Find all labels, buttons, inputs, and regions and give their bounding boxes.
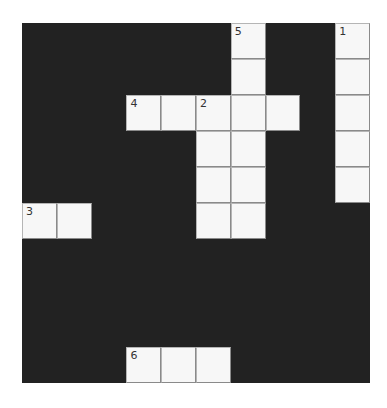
grid-cell-r2c4[interactable] <box>161 95 196 131</box>
black-square <box>335 311 370 347</box>
black-square <box>22 95 57 131</box>
black-square <box>92 59 127 95</box>
grid-cell-r9c4[interactable] <box>161 347 196 383</box>
black-square <box>266 131 301 167</box>
black-square <box>22 59 57 95</box>
black-square <box>57 23 92 59</box>
black-square <box>92 239 127 275</box>
crossword-grid: 514236 <box>22 23 370 383</box>
black-square <box>22 275 57 311</box>
black-square <box>126 23 161 59</box>
black-square <box>266 167 301 203</box>
black-square <box>300 131 335 167</box>
black-square <box>266 59 301 95</box>
grid-cell-r3c5[interactable] <box>196 131 231 167</box>
black-square <box>300 23 335 59</box>
black-square <box>22 311 57 347</box>
grid-cell-r1c9[interactable] <box>335 59 370 95</box>
black-square <box>196 59 231 95</box>
grid-cell-r0c6[interactable]: 5 <box>231 23 266 59</box>
black-square <box>92 203 127 239</box>
black-square <box>92 275 127 311</box>
grid-cell-r2c3[interactable]: 4 <box>126 95 161 131</box>
grid-cell-r2c5[interactable]: 2 <box>196 95 231 131</box>
black-square <box>161 239 196 275</box>
black-square <box>57 347 92 383</box>
black-square <box>266 239 301 275</box>
black-square <box>161 311 196 347</box>
black-square <box>196 311 231 347</box>
grid-cell-r3c6[interactable] <box>231 131 266 167</box>
black-square <box>92 23 127 59</box>
black-square <box>196 239 231 275</box>
black-square <box>300 347 335 383</box>
clue-number: 5 <box>235 25 242 38</box>
black-square <box>300 167 335 203</box>
black-square <box>231 311 266 347</box>
black-square <box>196 23 231 59</box>
black-square <box>266 311 301 347</box>
grid-cell-r2c7[interactable] <box>266 95 301 131</box>
grid-cell-r1c6[interactable] <box>231 59 266 95</box>
black-square <box>22 239 57 275</box>
black-square <box>266 347 301 383</box>
black-square <box>22 23 57 59</box>
grid-cell-r2c9[interactable] <box>335 95 370 131</box>
black-square <box>161 167 196 203</box>
grid-cell-r3c9[interactable] <box>335 131 370 167</box>
black-square <box>161 203 196 239</box>
black-square <box>335 275 370 311</box>
grid-cell-r9c5[interactable] <box>196 347 231 383</box>
black-square <box>126 167 161 203</box>
black-square <box>126 59 161 95</box>
black-square <box>266 23 301 59</box>
black-square <box>57 311 92 347</box>
black-square <box>300 95 335 131</box>
black-square <box>57 275 92 311</box>
grid-cell-r4c9[interactable] <box>335 167 370 203</box>
black-square <box>231 347 266 383</box>
black-square <box>266 275 301 311</box>
black-square <box>335 347 370 383</box>
clue-number: 1 <box>339 25 346 38</box>
clue-number: 3 <box>26 205 33 218</box>
black-square <box>126 203 161 239</box>
black-square <box>92 95 127 131</box>
grid-cell-r4c5[interactable] <box>196 167 231 203</box>
black-square <box>161 23 196 59</box>
grid-cell-r9c3[interactable]: 6 <box>126 347 161 383</box>
black-square <box>92 131 127 167</box>
black-square <box>22 167 57 203</box>
black-square <box>300 239 335 275</box>
black-square <box>22 131 57 167</box>
grid-cell-r4c6[interactable] <box>231 167 266 203</box>
black-square <box>335 239 370 275</box>
black-square <box>126 131 161 167</box>
black-square <box>231 275 266 311</box>
black-square <box>57 167 92 203</box>
grid-cell-r2c6[interactable] <box>231 95 266 131</box>
black-square <box>300 311 335 347</box>
black-square <box>92 311 127 347</box>
black-square <box>161 131 196 167</box>
grid-cell-r5c6[interactable] <box>231 203 266 239</box>
black-square <box>266 203 301 239</box>
black-square <box>57 239 92 275</box>
black-square <box>92 167 127 203</box>
black-square <box>335 203 370 239</box>
grid-cell-r0c9[interactable]: 1 <box>335 23 370 59</box>
grid-cell-r5c0[interactable]: 3 <box>22 203 57 239</box>
black-square <box>231 239 266 275</box>
clue-number: 6 <box>130 349 137 362</box>
black-square <box>161 59 196 95</box>
black-square <box>57 95 92 131</box>
black-square <box>300 59 335 95</box>
black-square <box>22 347 57 383</box>
grid-cell-r5c5[interactable] <box>196 203 231 239</box>
clue-number: 2 <box>200 97 207 110</box>
black-square <box>126 239 161 275</box>
black-square <box>126 275 161 311</box>
grid-cell-r5c1[interactable] <box>57 203 92 239</box>
black-square <box>126 311 161 347</box>
black-square <box>92 347 127 383</box>
